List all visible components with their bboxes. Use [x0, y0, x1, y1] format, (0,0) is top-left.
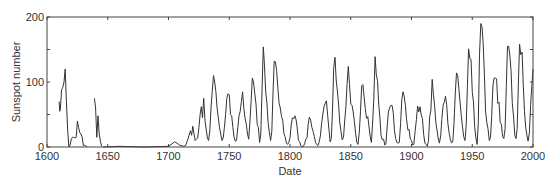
- y-tick-label: 0: [38, 141, 44, 153]
- sunspot-line-series: [59, 24, 533, 148]
- x-axis-label: Date: [278, 165, 301, 177]
- x-tick-label: 1900: [399, 150, 423, 162]
- sunspot-line: [94, 98, 101, 146]
- x-axis-ticks: 160016501700175018001850190019502000: [35, 17, 545, 162]
- x-tick-label: 1750: [217, 150, 241, 162]
- sunspot-line: [59, 69, 87, 147]
- x-tick-label: 1950: [460, 150, 484, 162]
- y-axis-label: Sunspot number: [10, 41, 22, 122]
- x-tick-label: 1650: [96, 150, 120, 162]
- x-tick-label: 1850: [339, 150, 363, 162]
- y-tick-label: 200: [26, 11, 44, 23]
- y-axis-ticks: 0100200: [26, 11, 533, 153]
- y-tick-label: 100: [26, 76, 44, 88]
- x-tick-label: 1700: [156, 150, 180, 162]
- plot-frame: [47, 17, 533, 147]
- sunspot-line: [103, 24, 533, 148]
- sunspot-chart: 160016501700175018001850190019502000 010…: [0, 0, 552, 182]
- x-tick-label: 2000: [521, 150, 545, 162]
- x-tick-label: 1800: [278, 150, 302, 162]
